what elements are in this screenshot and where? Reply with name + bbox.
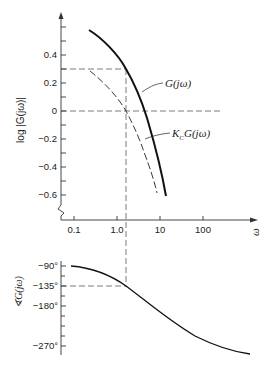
magnitude-tick-labels: 0.4 0.2 0 −0.2 −0.4 −0.6 [38, 49, 57, 200]
tick-neg135: −135° [33, 280, 58, 291]
leader-kcg [145, 133, 170, 139]
tick-neg270: −270° [33, 340, 58, 351]
label-kcg: KCG(jω) [171, 127, 210, 142]
xtick-10: 10 [155, 224, 166, 235]
x-axis-arrow-icon [250, 218, 258, 223]
tick-neg-0.6: −0.6 [38, 189, 57, 200]
phase-y-label: ∢G(jω) [13, 275, 25, 307]
leader-g [142, 83, 163, 92]
label-g: G(jω) [165, 77, 191, 90]
bode-plot: 0.4 0.2 0 −0.2 −0.4 −0.6 0.1 1.0 10 100 … [0, 0, 268, 369]
xtick-0.1: 0.1 [67, 224, 80, 235]
phase-tick-labels: −90° −135° −180° −270° [33, 260, 58, 351]
legend-annotations: G(jω) KCG(jω) [142, 77, 210, 142]
xtick-100: 100 [195, 224, 211, 235]
tick-0: 0 [52, 105, 57, 116]
tick-0.4: 0.4 [44, 49, 57, 60]
magnitude-axes [58, 12, 258, 223]
x-axis-label: ω [249, 228, 261, 236]
tick-neg-0.2: −0.2 [38, 133, 57, 144]
y-axis-arrow-icon [59, 12, 64, 19]
tick-neg180: −180° [33, 300, 58, 311]
tick-neg90: −90° [38, 260, 58, 271]
xtick-1.0: 1.0 [110, 224, 123, 235]
phase-axes [61, 261, 66, 355]
phase-curve [71, 266, 250, 354]
tick-neg-0.4: −0.4 [38, 161, 57, 172]
x-tick-labels: 0.1 1.0 10 100 [67, 224, 211, 235]
magnitude-y-label: log |G(jω)| [15, 97, 26, 143]
tick-0.2: 0.2 [44, 77, 57, 88]
